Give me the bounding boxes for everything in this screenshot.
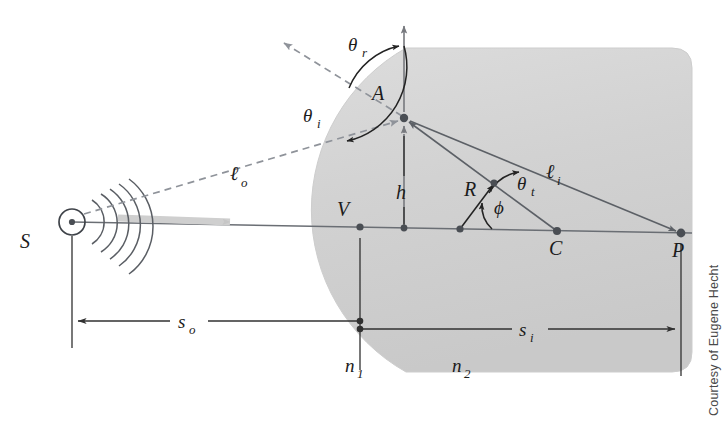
n1-glyph: n: [345, 355, 355, 376]
theta-r-subscript: r: [362, 45, 368, 60]
label-ray-height: h: [396, 181, 406, 203]
radius-touch-dot: [491, 180, 498, 187]
incidence-dot: [400, 114, 408, 122]
label-theta-i: θ i: [303, 105, 321, 131]
label-radius: R: [463, 178, 476, 200]
theta-t-subscript: t: [531, 184, 535, 199]
label-image-point: P: [671, 239, 684, 261]
ell-o-subscript: o: [241, 175, 248, 190]
theta-i-glyph: θ: [303, 105, 312, 126]
figure-credit: Courtesy of Eugene Hecht: [707, 264, 721, 416]
height-foot-dot: [401, 225, 408, 232]
n2-subscript: 2: [464, 366, 471, 381]
ell-i-subscript: i: [557, 173, 561, 188]
so-glyph: s: [178, 311, 185, 332]
si-glyph: s: [519, 319, 526, 340]
radius-origin-dot: [456, 225, 463, 232]
theta-r-glyph: θ: [348, 34, 357, 55]
so-subscript: o: [189, 322, 196, 337]
ell-i-glyph: ℓ: [546, 160, 555, 182]
wavefront-arcs: [92, 179, 153, 274]
image-dot: [677, 229, 686, 238]
label-index-1: n 1: [345, 355, 364, 381]
label-theta-r: θ r: [348, 34, 368, 60]
center-dot: [553, 227, 561, 235]
n1-subscript: 1: [357, 366, 364, 381]
theta-t-glyph: θ: [517, 173, 526, 194]
si-subscript: i: [530, 330, 534, 345]
label-incidence-point: A: [370, 82, 385, 104]
label-object-distance: s o: [178, 311, 196, 337]
label-source-point: S: [20, 230, 30, 252]
optics-refraction-figure: S V A C P θ i θ r θ t ϕ R h ℓ o ℓ i s: [0, 0, 727, 424]
label-phi: ϕ: [494, 197, 504, 218]
diagram-canvas: S V A C P θ i θ r θ t ϕ R h ℓ o ℓ i s: [0, 0, 727, 424]
ell-o-glyph: ℓ: [230, 162, 239, 184]
theta-i-subscript: i: [317, 116, 321, 131]
object-distance-dimension: [78, 318, 363, 325]
propagation-direction-arrow: [118, 218, 230, 222]
label-center-point: C: [549, 237, 563, 259]
vertex-dot: [356, 223, 363, 230]
n2-glyph: n: [452, 355, 462, 376]
